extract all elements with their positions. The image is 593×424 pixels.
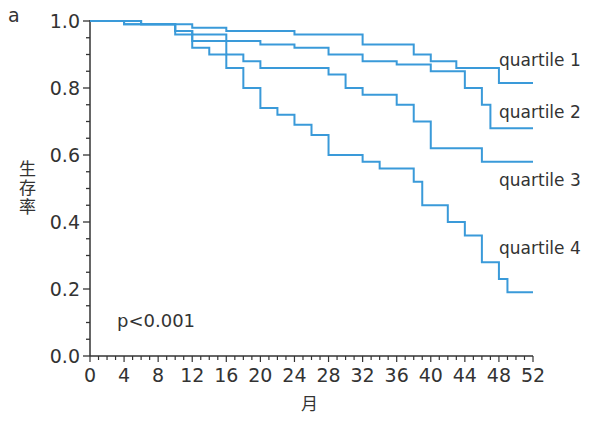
y-axis-label: 生存率 — [16, 160, 38, 217]
svg-text:40: 40 — [419, 364, 443, 386]
curve-quartile-1 — [90, 21, 533, 83]
svg-text:48: 48 — [487, 364, 511, 386]
svg-text:0.0: 0.0 — [50, 345, 80, 367]
curve-quartile-2 — [90, 21, 533, 128]
series-label-quartile-4: quartile 4 — [499, 238, 581, 258]
svg-text:52: 52 — [521, 364, 545, 386]
svg-text:0.2: 0.2 — [50, 278, 80, 300]
svg-text:20: 20 — [248, 364, 272, 386]
svg-text:4: 4 — [118, 364, 130, 386]
svg-text:0.8: 0.8 — [50, 77, 80, 99]
svg-text:16: 16 — [214, 364, 238, 386]
svg-text:0: 0 — [84, 364, 96, 386]
svg-text:0.4: 0.4 — [50, 211, 80, 233]
series-label-quartile-3: quartile 3 — [499, 170, 581, 190]
svg-text:24: 24 — [282, 364, 306, 386]
curve-quartile-4 — [90, 21, 533, 292]
curve-quartile-3 — [90, 21, 533, 162]
x-axis-label: 月 — [301, 390, 318, 415]
p-value-annotation: p<0.001 — [117, 310, 195, 331]
svg-text:12: 12 — [180, 364, 204, 386]
panel-label: a — [8, 4, 20, 26]
series-label-quartile-2: quartile 2 — [499, 102, 581, 122]
svg-text:8: 8 — [152, 364, 164, 386]
svg-text:44: 44 — [453, 364, 477, 386]
svg-text:28: 28 — [316, 364, 340, 386]
survival-curves — [90, 21, 533, 292]
svg-text:1.0: 1.0 — [50, 10, 80, 32]
series-label-quartile-1: quartile 1 — [499, 50, 581, 70]
svg-text:36: 36 — [385, 364, 409, 386]
svg-text:32: 32 — [351, 364, 375, 386]
svg-text:0.6: 0.6 — [50, 144, 80, 166]
